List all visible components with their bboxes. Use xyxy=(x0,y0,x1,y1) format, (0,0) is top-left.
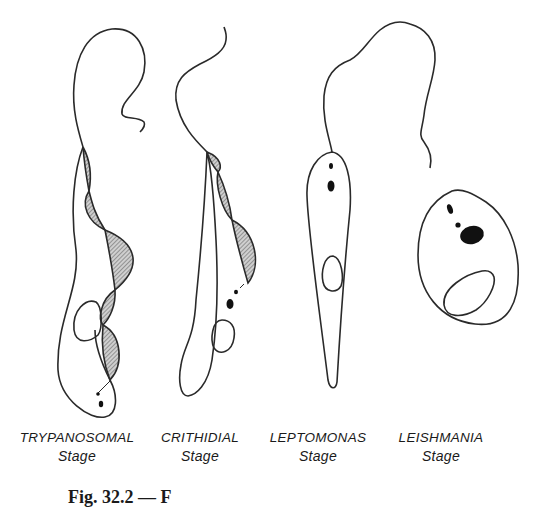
stage-name: LEPTOMONAS xyxy=(262,428,374,447)
trypanosomal-body xyxy=(58,147,116,417)
crithidial-kinetoplast xyxy=(227,299,234,309)
leptomonas-blepharoplast xyxy=(329,163,333,169)
stage-name: TRYPANOSOMAL xyxy=(12,428,142,447)
label-leishmania: LEISHMANIA Stage xyxy=(388,428,494,466)
stage-suffix: Stage xyxy=(12,447,142,466)
leishmania-kinetoplast xyxy=(458,223,486,247)
trypanosomal-organism xyxy=(58,29,145,417)
stage-name: LEISHMANIA xyxy=(388,428,494,447)
stage-suffix: Stage xyxy=(262,447,374,466)
leptomonas-nucleus xyxy=(322,256,342,291)
figure-caption: Fig. 32.2 — F xyxy=(68,487,172,508)
leishmania-organism xyxy=(418,190,518,324)
leptomonas-organism xyxy=(307,22,435,388)
trypanosomal-undulating-membrane xyxy=(83,147,90,191)
crithidial-body xyxy=(180,152,218,396)
leptomonas-kinetoplast xyxy=(328,181,335,192)
leishmania-blepharoplast xyxy=(446,203,454,214)
trypanosomal-kinetoplast xyxy=(99,401,103,407)
stage-suffix: Stage xyxy=(388,447,494,466)
label-crithidial: CRITHIDIAL Stage xyxy=(150,428,250,466)
crithidial-blepharoplast xyxy=(234,290,238,294)
leptomonas-flagellum xyxy=(324,22,435,168)
label-leptomonas: LEPTOMONAS Stage xyxy=(262,428,374,466)
leishmania-body xyxy=(418,190,518,324)
trypanosomal-blepharoplast xyxy=(96,392,100,396)
leishmania-small-granule xyxy=(455,222,460,227)
crithidial-flagellum xyxy=(176,27,227,152)
leishmania-nucleus xyxy=(444,271,494,316)
trypanosomal-nucleus xyxy=(74,301,101,341)
trypanosomal-flagellum xyxy=(74,29,145,147)
stage-name: CRITHIDIAL xyxy=(150,428,250,447)
crithidial-organism xyxy=(176,27,256,396)
label-trypanosomal: TRYPANOSOMAL Stage xyxy=(12,428,142,466)
stage-suffix: Stage xyxy=(150,447,250,466)
